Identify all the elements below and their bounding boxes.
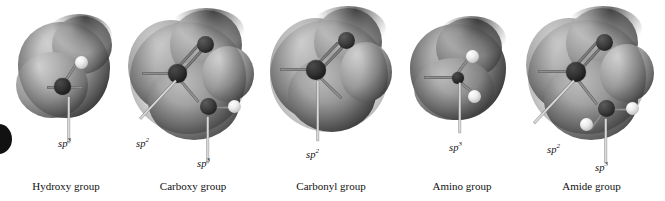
label-amino-sp3: sp3	[449, 140, 462, 153]
label-amide-sp2-exponent: 2	[557, 142, 561, 150]
atom-hydrogen-1-amide	[626, 102, 639, 115]
label-carbonyl-sp2-exponent: 2	[316, 147, 320, 155]
atom-carbon-carboxy	[168, 64, 187, 83]
atom-hydrogen-2-amide	[580, 118, 593, 131]
caption-carbonyl: Carbonyl group	[258, 180, 404, 192]
label-carboxy-sp2-exponent: 2	[146, 136, 150, 144]
panel-amide: sp2 sp3 Amide group	[518, 0, 665, 201]
atom-oxygen-hydroxy	[54, 78, 71, 95]
label-amino-sp3-base: sp	[449, 142, 459, 153]
caption-amino: Amino group	[396, 180, 528, 192]
label-amide-sp3-exponent: 3	[605, 160, 609, 168]
atom-oxygen-carbonyl	[338, 32, 355, 49]
label-carboxy-sp2: sp2	[136, 136, 149, 149]
panel-amino: sp3 Amino group	[396, 0, 528, 201]
label-carboxy-sp3: sp3	[197, 156, 210, 169]
panel-carbonyl: sp2 Carbonyl group	[258, 0, 404, 201]
label-carboxy-sp3-exponent: 3	[207, 156, 211, 164]
atom-oxygen-amide	[596, 34, 613, 51]
label-carbonyl-sp2-base: sp	[306, 149, 316, 160]
atom-nitrogen-amino	[452, 72, 464, 84]
leader-line-carbonyl-sp2	[317, 81, 319, 141]
label-hydroxy-sp3: sp3	[58, 136, 71, 149]
functional-group-surface-figure: sp3 Hydroxy group sp2 sp3 Ca	[0, 0, 665, 201]
atom-hydrogen-1-amino	[466, 50, 479, 63]
atom-oxygen-hydroxyl-carboxy	[200, 98, 217, 115]
atom-hydrogen-hydroxy	[75, 56, 88, 69]
atom-hydrogen-2-amino	[468, 90, 481, 103]
panel-carboxy: sp2 sp3 Carboxy group	[118, 0, 268, 201]
label-hydroxy-sp3-base: sp	[58, 138, 68, 149]
atom-carbon-carbonyl	[306, 60, 326, 80]
caption-carboxy: Carboxy group	[118, 180, 268, 192]
label-carboxy-sp2-base: sp	[136, 138, 146, 149]
atom-nitrogen-amide	[598, 100, 615, 117]
atom-carbon-amide	[566, 62, 586, 82]
atom-oxygen-double-carboxy	[197, 36, 214, 53]
caption-hydroxy: Hydroxy group	[0, 180, 132, 192]
label-amide-sp2: sp2	[547, 142, 560, 155]
label-hydroxy-sp3-exponent: 3	[68, 136, 72, 144]
label-amide-sp2-base: sp	[547, 144, 557, 155]
label-amino-sp3-exponent: 3	[459, 140, 463, 148]
label-carboxy-sp3-base: sp	[197, 158, 207, 169]
label-amide-sp3-base: sp	[595, 162, 605, 173]
caption-amide: Amide group	[518, 180, 665, 192]
label-carbonyl-sp2: sp2	[306, 147, 319, 160]
leader-line-amino-sp3	[459, 83, 461, 133]
atom-hydrogen-carboxy	[228, 100, 241, 113]
leader-line-amide-sp3	[605, 119, 607, 163]
label-amide-sp3: sp3	[595, 160, 608, 173]
panel-hydroxy: sp3 Hydroxy group	[0, 0, 132, 201]
